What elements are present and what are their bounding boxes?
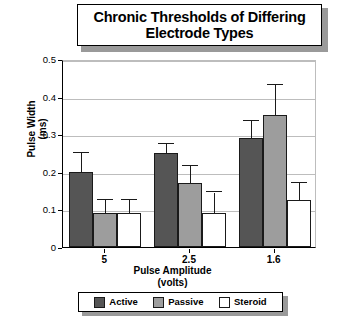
y-axis-tick-label: 0: [30, 243, 56, 252]
bar-passive-5: [93, 213, 117, 247]
error-bar-stem: [129, 200, 130, 213]
error-bar-stem: [275, 85, 276, 115]
legend-label: Active: [109, 297, 138, 307]
error-bar-cap: [158, 143, 174, 144]
error-bar-cap: [291, 182, 307, 183]
error-bar-cap: [73, 152, 89, 153]
error-bar-cap: [97, 199, 113, 200]
error-bar-cap: [243, 120, 259, 121]
y-axis-tick-label: 0.4: [30, 93, 56, 102]
chart-container: Chronic Thresholds of Differing Electrod…: [0, 0, 345, 323]
legend-item-active[interactable]: Active: [94, 297, 138, 308]
x-axis-tick-label: 1.6: [244, 254, 304, 265]
error-bar-cap: [121, 199, 137, 200]
x-axis-title: Pulse Amplitude (volts): [0, 265, 345, 288]
error-bar-stem: [214, 193, 215, 214]
y-axis-tick-label: 0.2: [30, 168, 56, 177]
x-axis-title-line-2: (volts): [158, 277, 188, 288]
x-axis-title-line-1: Pulse Amplitude: [134, 265, 212, 276]
legend-swatch-icon: [219, 297, 230, 308]
bar-passive-2.5: [178, 183, 202, 247]
bar-steroid-2.5: [202, 213, 226, 247]
error-bar-cap: [267, 84, 283, 85]
legend-item-passive[interactable]: Passive: [153, 297, 203, 308]
error-bar-stem: [190, 166, 191, 183]
x-axis-tick-mark: [104, 249, 105, 253]
legend-label: Steroid: [234, 297, 267, 307]
x-axis-tick-label: 5: [74, 254, 134, 265]
x-axis-tick-mark: [189, 249, 190, 253]
error-bar-stem: [166, 144, 167, 153]
plot-area: [62, 60, 316, 248]
bar-steroid-5: [117, 213, 141, 247]
x-axis-tick-mark: [274, 249, 275, 253]
y-axis-tick-mark: [58, 248, 62, 249]
error-bar-cap: [182, 165, 198, 166]
bar-active-5: [69, 172, 93, 247]
grid-line: [63, 99, 315, 100]
x-axis-tick-label: 2.5: [159, 254, 219, 265]
y-axis-tick-label: 0.1: [30, 205, 56, 214]
bar-active-2.5: [154, 153, 178, 247]
legend-label: Passive: [168, 297, 203, 307]
error-bar-cap: [206, 191, 222, 192]
legend-swatch-icon: [153, 297, 164, 308]
chart-legend: ActivePassiveSteroid: [78, 292, 283, 312]
error-bar-stem: [251, 121, 252, 138]
y-axis-tick-label: 0.3: [30, 130, 56, 139]
legend-item-steroid[interactable]: Steroid: [219, 297, 267, 308]
error-bar-stem: [81, 153, 82, 172]
error-bar-stem: [105, 200, 106, 213]
bar-steroid-1.6: [287, 200, 311, 247]
legend-swatch-icon: [94, 297, 105, 308]
bar-active-1.6: [239, 138, 263, 247]
bar-passive-1.6: [263, 115, 287, 247]
y-axis-tick-label: 0.5: [30, 55, 56, 64]
error-bar-stem: [299, 183, 300, 200]
grid-line: [63, 61, 315, 62]
